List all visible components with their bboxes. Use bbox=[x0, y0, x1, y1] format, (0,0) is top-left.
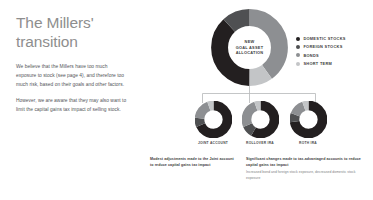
rollover-ira-donut-chart bbox=[242, 101, 279, 138]
slide-canvas: The Millers' transition We believe that … bbox=[0, 0, 373, 200]
legend-dot-icon bbox=[296, 53, 300, 57]
legend-item-bonds: BONDS bbox=[296, 53, 346, 58]
main-donut-svg bbox=[210, 8, 289, 87]
roth-ira-donut-svg bbox=[290, 101, 327, 138]
main-donut-chart: NEW GOAL ASSET ALLOCATION bbox=[210, 8, 289, 87]
joint-account-donut-chart bbox=[195, 101, 232, 138]
caption-detail: Increased bond and foreign stock exposur… bbox=[246, 170, 368, 182]
caption-tax-advantaged: Significant changes made to tax-advantag… bbox=[246, 156, 368, 182]
legend-item-domestic-stocks: DOMESTIC STOCKS bbox=[296, 36, 346, 41]
slice-short-term bbox=[246, 105, 274, 133]
account-item-roth-ira: ROTH IRA bbox=[285, 101, 331, 145]
roth-ira-donut-chart bbox=[290, 101, 327, 138]
account-item-joint-account: JOINT ACCOUNT bbox=[190, 101, 236, 145]
chart-legend: DOMESTIC STOCKS FOREIGN STOCKS BONDS SHO… bbox=[296, 36, 346, 70]
caption-headline: Modest adjustments made to the Joint acc… bbox=[150, 156, 236, 168]
account-item-rollover-ira: ROLLOVER IRA bbox=[237, 101, 283, 145]
body-paragraph-1: We believe that the Millers have too muc… bbox=[16, 63, 128, 90]
legend-label: BONDS bbox=[303, 53, 319, 58]
legend-dot-icon bbox=[296, 62, 300, 66]
main-slice-foreign-stocks bbox=[220, 18, 280, 78]
account-label: ROTH IRA bbox=[285, 141, 331, 145]
caption-headline: Significant changes made to tax-advantag… bbox=[246, 156, 368, 168]
legend-item-foreign-stocks: FOREIGN STOCKS bbox=[296, 44, 346, 49]
legend-dot-icon bbox=[296, 37, 300, 41]
allocation-diagram: NEW GOAL ASSET ALLOCATION DOMESTIC STOCK… bbox=[186, 0, 373, 200]
account-donut-row: JOINT ACCOUNT ROLLOVER IRA bbox=[186, 101, 373, 149]
slice-short-term bbox=[199, 105, 227, 133]
legend-item-short-term: SHORT TERM bbox=[296, 61, 346, 66]
account-label: ROLLOVER IRA bbox=[237, 141, 283, 145]
legend-label: SHORT TERM bbox=[303, 61, 332, 66]
body-paragraph-2: However, we are aware that they may also… bbox=[16, 97, 128, 115]
slice-short-term bbox=[294, 105, 322, 133]
account-label: JOINT ACCOUNT bbox=[190, 141, 236, 145]
joint-account-donut-svg bbox=[195, 101, 232, 138]
text-column: The Millers' transition We believe that … bbox=[16, 14, 128, 114]
page-title: The Millers' transition bbox=[16, 14, 128, 52]
legend-dot-icon bbox=[296, 45, 300, 49]
rollover-ira-donut-svg bbox=[242, 101, 279, 138]
legend-label: FOREIGN STOCKS bbox=[303, 44, 342, 49]
caption-joint-account: Modest adjustments made to the Joint acc… bbox=[150, 156, 236, 168]
legend-label: DOMESTIC STOCKS bbox=[303, 36, 345, 41]
